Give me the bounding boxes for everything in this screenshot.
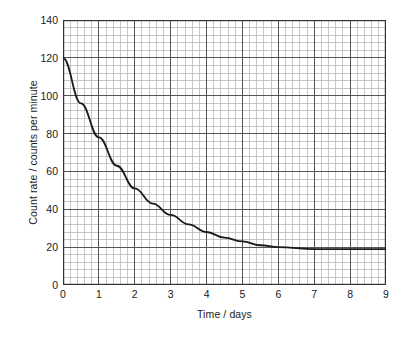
x-axis-tick-labels: 0123456789 [0, 289, 411, 305]
plot-frame [64, 21, 386, 285]
x-tick-label: 9 [374, 289, 398, 300]
decay-curve-chart: Count rate / counts per minute 020406080… [0, 0, 411, 337]
plot-area [63, 20, 386, 285]
y-tick-label: 60 [28, 166, 58, 176]
y-tick-label: 40 [28, 204, 58, 214]
y-tick-label: 100 [28, 91, 58, 101]
y-tick-label: 20 [28, 242, 58, 252]
y-tick-label: 120 [28, 53, 58, 63]
plot-svg [63, 20, 386, 285]
x-axis-title: Time / days [63, 308, 386, 320]
major-gridlines [63, 20, 386, 285]
x-tick-label: 8 [338, 289, 362, 300]
data-series-count-rate [63, 58, 386, 249]
x-tick-label: 6 [266, 289, 290, 300]
x-tick-label: 7 [302, 289, 326, 300]
x-tick-label: 1 [87, 289, 111, 300]
x-tick-label: 4 [195, 289, 219, 300]
y-tick-label: 140 [28, 15, 58, 25]
x-tick-label: 0 [51, 289, 75, 300]
x-tick-label: 5 [230, 289, 254, 300]
x-tick-label: 3 [159, 289, 183, 300]
y-tick-label: 80 [28, 129, 58, 139]
minor-gridlines [63, 20, 386, 285]
y-axis-tick-labels: 020406080100120140 [22, 0, 58, 337]
x-tick-label: 2 [123, 289, 147, 300]
